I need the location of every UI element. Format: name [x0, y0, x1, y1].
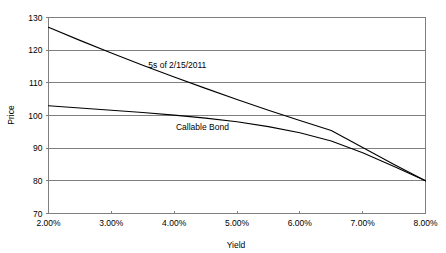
y-tick-label-90: 90	[33, 143, 43, 153]
series-label-callable-bond: Callable Bond	[176, 122, 229, 132]
x-axis-title: Yield	[227, 240, 246, 250]
y-tick-label-100: 100	[28, 111, 42, 121]
x-tick-label-3.00%: 3.00%	[99, 218, 124, 228]
x-tick-label-8.00%: 8.00%	[413, 218, 438, 228]
x-tick-label-5.00%: 5.00%	[225, 218, 250, 228]
y-tick-label-80: 80	[33, 176, 43, 186]
x-tick-label-7.00%: 7.00%	[351, 218, 376, 228]
y-tick-label-130: 130	[28, 13, 42, 23]
y-tick-label-120: 120	[28, 45, 42, 55]
y-tick-label-110: 110	[29, 78, 43, 88]
bond-price-yield-chart: 708090100110120130 2.00%3.00%4.00%5.00%6…	[0, 0, 446, 253]
x-tick-label-2.00%: 2.00%	[36, 218, 61, 228]
series-label-straight-bond: 5s of 2/15/2011	[148, 60, 206, 70]
x-tick-label-4.00%: 4.00%	[162, 218, 187, 228]
y-axis-title: Price	[6, 105, 16, 125]
chart-container: 708090100110120130 2.00%3.00%4.00%5.00%6…	[0, 0, 446, 253]
x-tick-label-6.00%: 6.00%	[288, 218, 313, 228]
